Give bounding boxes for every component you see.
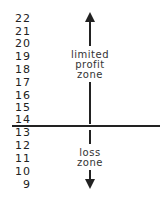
loss-zone-label: loss zone <box>50 148 130 168</box>
label-line: zone <box>50 158 130 168</box>
scale-label: 10 <box>13 166 31 178</box>
scale-label: 9 <box>13 179 31 191</box>
scale-label: 20 <box>13 38 31 50</box>
profit-arrow-shaft <box>89 20 91 46</box>
scale-label: 17 <box>13 77 31 89</box>
scale-label: 19 <box>13 51 31 63</box>
profit-arrow-shaft-lower <box>89 82 91 124</box>
scale-label: 22 <box>13 13 31 25</box>
loss-arrow-shaft-upper <box>89 130 91 144</box>
scale-label: 12 <box>13 140 31 152</box>
scale-label: 13 <box>13 127 31 139</box>
label-line: zone <box>50 70 130 80</box>
breakeven-line <box>12 125 160 127</box>
profit-zone-label: limited profit zone <box>50 50 130 80</box>
scale-label: 18 <box>13 64 31 76</box>
scale-label: 11 <box>13 153 31 165</box>
arrow-down-icon <box>84 179 96 189</box>
